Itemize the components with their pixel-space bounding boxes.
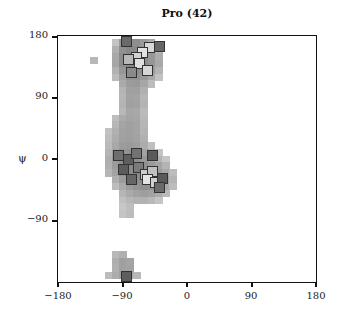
chart-title: Pro (42) [58, 7, 316, 20]
density-cell [126, 210, 134, 217]
density-cell [155, 74, 163, 81]
y-tick [52, 220, 57, 222]
density-cell [148, 80, 156, 87]
x-tick-label: 90 [231, 290, 271, 301]
density-cell [90, 57, 98, 64]
y-tick [52, 158, 57, 160]
y-tick-label: 90 [8, 90, 48, 101]
residue-marker [126, 67, 137, 78]
residue-marker [154, 182, 165, 193]
residue-marker [147, 150, 158, 161]
y-tick [52, 97, 57, 99]
x-tick-label: 180 [296, 290, 336, 301]
y-tick-label: 0 [8, 152, 48, 163]
residue-marker [142, 65, 153, 76]
residue-marker [126, 174, 137, 185]
residue-marker [154, 41, 165, 52]
y-tick-label: −90 [8, 213, 48, 224]
residue-marker [121, 36, 132, 47]
residue-marker [121, 271, 132, 282]
x-tick-label: 0 [167, 290, 207, 301]
x-tick-label: −90 [102, 290, 142, 301]
plot-area [58, 36, 316, 282]
x-tick [315, 282, 317, 287]
x-tick [186, 282, 188, 287]
x-tick-label: −180 [38, 290, 78, 301]
y-tick [52, 36, 57, 38]
density-cell [155, 197, 163, 204]
x-tick [57, 282, 59, 287]
x-tick [122, 282, 124, 287]
density-cell [133, 272, 141, 279]
residue-marker [131, 148, 142, 159]
density-cell [169, 183, 177, 190]
x-tick [251, 282, 253, 287]
residue-marker [123, 54, 134, 65]
y-tick-label: 180 [8, 29, 48, 40]
